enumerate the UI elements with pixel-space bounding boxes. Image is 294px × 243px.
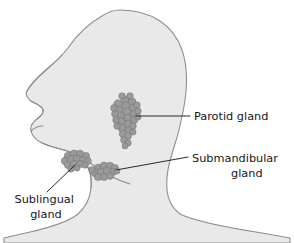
submandibular-gland-label-line1: Submandibular [192,152,278,165]
parotid-gland-label: Parotid gland [194,110,268,123]
sublingual-leader-line [47,165,75,192]
sublingual-gland-label-line1: Sublingual [15,193,74,206]
submandibular-gland-label-line2: gland [231,167,263,180]
sublingual-gland-label: Sublingual gland [15,193,78,221]
salivary-glands-figure: Parotid gland Submandibular gland Sublin… [0,0,294,243]
sublingual-gland-cluster [61,150,91,172]
anatomical-diagram: Parotid gland Submandibular gland Sublin… [0,0,294,243]
sublingual-gland-label-line2: gland [30,208,62,221]
submandibular-gland-label: Submandibular gland [192,152,282,180]
